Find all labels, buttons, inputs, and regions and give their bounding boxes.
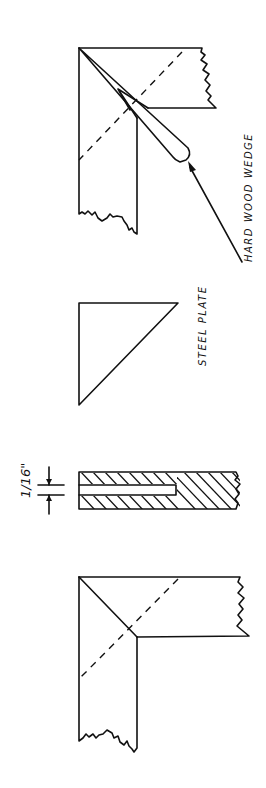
steel-plate: STEEL PLATE xyxy=(79,286,208,405)
joint-left-edge xyxy=(79,48,137,234)
miter-line xyxy=(79,577,137,637)
section-outline xyxy=(79,472,240,509)
slot-dimension: 1/16" xyxy=(18,463,64,514)
slot-dimension-label: 1/16" xyxy=(18,463,33,498)
miter-guide-line xyxy=(79,52,182,160)
joint-outline xyxy=(79,48,216,108)
leader-arrow xyxy=(190,167,242,262)
arrow-head-icon xyxy=(188,161,196,172)
slot xyxy=(79,485,176,495)
steel-plate-label: STEEL PLATE xyxy=(197,286,208,366)
steel-plate-triangle xyxy=(79,303,178,405)
joint-outline xyxy=(79,577,249,637)
technical-drawing: HARD WOOD WEDGE STEEL PLATE xyxy=(0,0,266,788)
slotted-section: 1/16" xyxy=(18,463,266,514)
wedge-label: HARD WOOD WEDGE xyxy=(243,133,254,262)
wedged-miter-joint: HARD WOOD WEDGE xyxy=(79,48,254,262)
dimension-arrow-icon xyxy=(46,479,52,485)
wedge xyxy=(79,48,190,162)
joint-left-edge xyxy=(79,577,137,752)
dimension-arrow-icon xyxy=(46,495,52,501)
plain-miter-joint xyxy=(79,577,249,752)
